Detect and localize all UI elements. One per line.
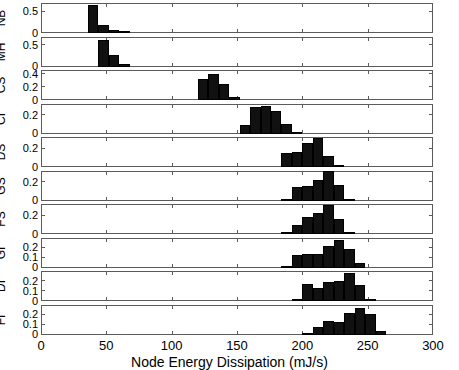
subplot-row-label-gi: GI	[0, 238, 7, 268]
x-tick-mark	[172, 305, 173, 309]
histogram-bar	[344, 273, 354, 301]
histogram-bar	[292, 132, 302, 134]
x-tick-mark	[237, 297, 238, 301]
x-tick-mark	[368, 264, 369, 268]
x-axis-title: Node Energy Dissipation (mJ/s)	[0, 355, 459, 370]
x-tick-mark	[302, 3, 303, 7]
plot-area	[41, 137, 433, 167]
histogram-bar	[323, 321, 333, 335]
x-tick-mark	[368, 305, 369, 309]
y-tick-label: 0.1	[23, 252, 38, 263]
histogram-bar	[355, 285, 365, 301]
y-tick-mark	[429, 11, 433, 12]
y-tick-label: 0.2	[23, 210, 38, 221]
histogram-bar	[344, 232, 354, 234]
y-tick-label: 0	[32, 128, 38, 139]
histogram-bar	[198, 79, 208, 100]
y-tick-mark	[429, 257, 433, 258]
histogram-bar	[219, 84, 229, 100]
x-tick-mark	[172, 104, 173, 108]
subplot-ds	[41, 137, 433, 167]
y-tick-mark	[429, 73, 433, 74]
x-tick-mark	[106, 297, 107, 301]
histogram-bar	[88, 5, 98, 33]
y-tick-mark	[429, 300, 433, 301]
subplot-row-label-ds: DS	[0, 137, 7, 167]
y-tick-label: 0	[32, 262, 38, 273]
x-tick-mark	[106, 104, 107, 108]
histogram-bar	[323, 156, 333, 167]
y-tick-mark	[429, 66, 433, 67]
histogram-bar	[313, 180, 323, 201]
histogram-bar	[344, 313, 354, 335]
x-tick-mark	[172, 204, 173, 208]
y-tick-mark	[41, 290, 45, 291]
x-tick-mark	[106, 271, 107, 275]
x-tick-mark	[368, 204, 369, 208]
y-tick-mark	[41, 334, 45, 335]
x-tick-mark	[106, 163, 107, 167]
y-tick-label: 0.2	[23, 242, 38, 253]
histogram-bar	[313, 213, 323, 234]
y-tick-mark	[429, 200, 433, 201]
x-tick-mark	[237, 230, 238, 234]
y-tick-mark	[429, 99, 433, 100]
histogram-bar	[98, 25, 108, 33]
x-tick-mark	[237, 197, 238, 201]
subplot-gs	[41, 171, 433, 201]
histogram-bar	[313, 138, 323, 167]
y-tick-label: 0	[32, 28, 38, 39]
histogram-bar	[229, 97, 239, 100]
y-tick-mark	[41, 11, 45, 12]
x-tick-mark	[106, 96, 107, 100]
y-tick-mark	[41, 215, 45, 216]
y-tick-label: 0.4	[23, 69, 38, 80]
x-tick-mark	[106, 264, 107, 268]
y-tick-mark	[429, 215, 433, 216]
x-tick-mark	[368, 230, 369, 234]
x-tick-mark	[237, 171, 238, 175]
x-tick-mark	[237, 137, 238, 141]
x-tick-mark	[237, 70, 238, 74]
y-tick-label: 0.2	[23, 177, 38, 188]
x-tick-mark	[106, 3, 107, 7]
histogram-bar	[302, 217, 312, 234]
y-tick-mark	[41, 44, 45, 45]
histogram-bar	[355, 263, 365, 268]
x-tick-mark	[237, 63, 238, 67]
x-tick-mark	[368, 96, 369, 100]
x-tick-mark	[302, 104, 303, 108]
x-tick-mark	[172, 331, 173, 335]
histogram-bar	[109, 30, 119, 33]
histogram-bar	[240, 125, 250, 133]
x-tick-mark	[172, 37, 173, 41]
histogram-bar	[334, 240, 344, 268]
x-tick-label: 0	[21, 339, 61, 352]
x-tick-mark	[368, 137, 369, 141]
histogram-bar	[261, 106, 271, 133]
y-tick-mark	[41, 73, 45, 74]
x-tick-mark	[172, 130, 173, 134]
x-tick-mark	[106, 70, 107, 74]
y-tick-mark	[41, 114, 45, 115]
y-tick-mark	[429, 114, 433, 115]
x-tick-mark	[172, 297, 173, 301]
histogram-bar	[334, 281, 344, 301]
y-tick-mark	[41, 280, 45, 281]
y-tick-mark	[41, 247, 45, 248]
histogram-bar	[313, 327, 323, 335]
x-tick-mark	[368, 271, 369, 275]
y-tick-mark	[41, 148, 45, 149]
histogram-bar	[313, 254, 323, 268]
y-tick-label: 0.2	[23, 143, 38, 154]
y-tick-mark	[41, 267, 45, 268]
y-tick-label: 0.5	[23, 40, 38, 51]
x-tick-mark	[302, 37, 303, 41]
plot-area	[41, 3, 433, 33]
y-tick-label: 0.2	[23, 82, 38, 93]
x-tick-mark	[368, 37, 369, 41]
x-tick-mark	[302, 63, 303, 67]
histogram-bar	[281, 153, 291, 167]
histogram-bar	[334, 185, 344, 200]
histogram-bar	[334, 219, 344, 234]
